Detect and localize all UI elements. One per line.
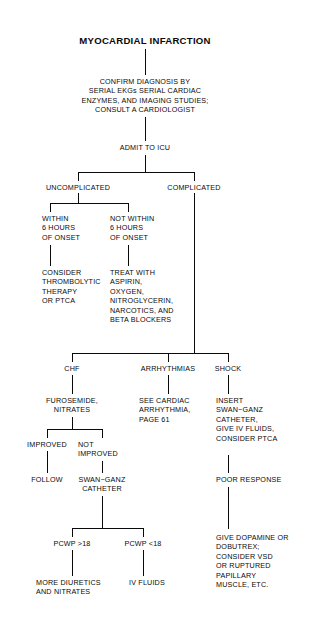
connector-to-not-improved [102, 429, 103, 438]
flowchart-canvas: MYOCARDIAL INFARCTION CONFIRM DIAGNOSIS … [0, 0, 314, 618]
node-iv-fluids: IV FLUIDS [129, 578, 165, 587]
node-consider-thrombolytic: CONSIDER THROMBOLYTIC THERAPY OR PTCA [42, 268, 101, 306]
connector-split-pcwp [72, 528, 143, 529]
node-give-dopamine: GIVE DOPAMINE OR DOBUTREX; CONSIDER VSD … [216, 533, 289, 589]
node-pcwp-less-18: PCWP <18 [124, 539, 161, 548]
connector-to-complicated [194, 172, 195, 181]
connector-furosemide-down [72, 417, 73, 429]
connector-pcwplow-to-ivfluids [143, 550, 144, 576]
connector-title-to-confirm [145, 49, 146, 75]
connector-pcwphigh-to-diuretics [72, 550, 73, 576]
node-uncomplicated: UNCOMPLICATED [46, 183, 110, 192]
connector-insert-to-poor-response [228, 455, 229, 473]
connector-to-pcwp-high [72, 528, 73, 537]
connector-shock-to-insert [228, 375, 229, 394]
connector-notwithin6-to-treat [128, 245, 129, 266]
node-chf: CHF [64, 364, 79, 373]
node-admit-to-icu: ADMIT TO ICU [120, 143, 170, 152]
connector-split-chf-arrhythmias-shock [72, 353, 229, 354]
node-within-6-hours: WITHIN 6 HOURS OF ONSET [42, 214, 80, 242]
connector-to-shock [228, 353, 229, 362]
connector-split-improved [47, 429, 102, 430]
node-confirm-diagnosis: CONFIRM DIAGNOSIS BY SERIAL EKGs SERIAL … [81, 77, 208, 115]
connector-to-within-6 [50, 203, 51, 212]
connector-to-not-within-6 [128, 203, 129, 212]
node-follow: FOLLOW [31, 475, 62, 484]
connector-chf-to-furosemide [72, 375, 73, 394]
node-furosemide-nitrates: FUROSEMIDE, NITRATES [46, 396, 98, 415]
node-improved: IMPROVED [27, 440, 67, 449]
node-insert-swan-ganz: INSERT SWAN−GANZ CATHETER, GIVE IV FLUID… [216, 396, 277, 443]
node-swan-ganz-catheter: SWAN−GANZ CATHETER [78, 475, 125, 494]
node-see-cardiac-arrhythmia: SEE CARDIAC ARRHYTHMIA, PAGE 61 [139, 396, 191, 424]
connector-split-hours [50, 203, 128, 204]
node-pcwp-greater-18: PCWP >18 [53, 539, 90, 548]
connector-to-pcwp-low [143, 528, 144, 537]
connector-to-improved [47, 429, 48, 438]
connector-to-uncomplicated [78, 172, 79, 181]
connector-split-uncomp-comp [78, 172, 195, 173]
node-treat-with: TREAT WITH ASPIRIN, OXYGEN, NITROGLYCERI… [110, 268, 174, 324]
connector-arrhythmias-to-see-cardiac [168, 375, 169, 394]
node-arrhythmias: ARRHYTHMIAS [141, 364, 195, 373]
connector-to-arrhythmias [168, 353, 169, 362]
node-more-diuretics: MORE DIURETICS AND NITRATES [36, 578, 101, 597]
connector-within6-to-thrombolytic [50, 245, 51, 266]
connector-to-chf [72, 353, 73, 362]
node-not-improved: NOT IMPROVED [78, 440, 118, 459]
connector-confirm-to-admit [145, 117, 146, 141]
node-shock: SHOCK [215, 364, 241, 373]
connector-notimproved-to-swan [102, 461, 103, 473]
node-complicated: COMPLICATED [167, 183, 220, 192]
connector-improved-to-follow [47, 451, 48, 473]
connector-swan-down [102, 496, 103, 528]
node-title: MYOCARDIAL INFARCTION [79, 35, 210, 46]
connector-complicated-down [194, 193, 195, 353]
node-poor-response: POOR RESPONSE [216, 475, 281, 484]
connector-poorresponse-to-dopamine [228, 487, 229, 529]
node-not-within-6-hours: NOT WITHIN 6 HOURS OF ONSET [110, 214, 154, 242]
connector-admit-down [145, 155, 146, 172]
connector-uncomplicated-down [78, 193, 79, 203]
